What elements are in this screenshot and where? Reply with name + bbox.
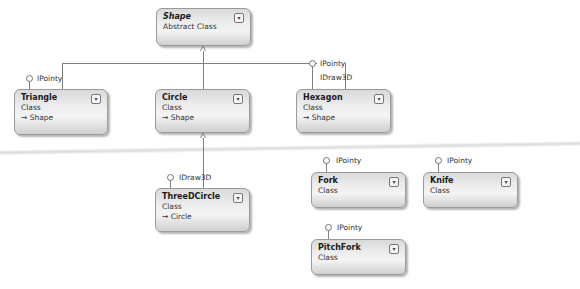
class-knife[interactable]: Knife Class ▾: [423, 172, 518, 208]
interface-label-idraw3d: IDraw3D: [320, 73, 352, 82]
class-kind: Class: [162, 103, 243, 113]
class-kind: Class: [21, 103, 101, 113]
interface-label-ipointy: IPointy: [447, 156, 472, 165]
class-base: → Shape: [21, 113, 101, 123]
interface-label-ipointy: IPointy: [37, 74, 62, 83]
class-name: Triangle: [21, 93, 101, 103]
chevron-double-down-icon[interactable]: ▾: [389, 244, 399, 254]
interface-label-ipointy: IPointy: [336, 156, 361, 165]
class-name: Fork: [318, 176, 399, 186]
class-triangle[interactable]: Triangle Class → Shape ▾: [14, 89, 108, 135]
interface-label-ipointy: IPointy: [320, 59, 345, 68]
class-kind: Class: [162, 202, 243, 212]
background-shadow-band: [0, 141, 580, 156]
class-shape[interactable]: Shape Abstract Class ▾: [156, 8, 251, 46]
circle-inheritance-line: [203, 63, 204, 89]
class-circle[interactable]: Circle Class → Shape ▾: [155, 89, 250, 133]
shape-inheritance-stem: [203, 50, 204, 64]
interface-link: [312, 66, 313, 89]
class-name: Shape: [163, 12, 244, 22]
inheritance-bar: [62, 63, 317, 64]
class-kind: Class: [303, 103, 384, 113]
interface-label-ipointy: IPointy: [337, 223, 362, 232]
class-base: → Shape: [303, 113, 384, 123]
class-base: → Circle: [162, 212, 243, 222]
chevron-double-down-icon[interactable]: ▾: [389, 177, 399, 187]
class-kind: Abstract Class: [163, 22, 244, 32]
class-kind: Class: [430, 186, 511, 196]
class-name: ThreeDCircle: [162, 192, 243, 202]
class-kind: Class: [318, 186, 399, 196]
chevron-double-down-icon[interactable]: ▾: [501, 177, 511, 187]
chevron-double-down-icon[interactable]: ▾: [233, 94, 243, 104]
interface-label-idraw3d: IDraw3D: [179, 173, 211, 182]
class-threedcircle[interactable]: ThreeDCircle Class → Circle ▾: [155, 188, 250, 232]
interface-link: [328, 230, 329, 239]
class-fork[interactable]: Fork Class ▾: [311, 172, 406, 208]
class-kind: Class: [318, 253, 399, 263]
class-hexagon[interactable]: Hexagon Class → Shape ▾: [296, 89, 391, 133]
interface-link: [29, 81, 30, 89]
chevron-double-down-icon[interactable]: ▾: [233, 193, 243, 203]
interface-link: [170, 180, 171, 188]
class-base: → Shape: [162, 113, 243, 123]
chevron-double-down-icon[interactable]: ▾: [234, 13, 244, 23]
interface-link: [438, 163, 439, 172]
chevron-double-down-icon[interactable]: ▾: [374, 94, 384, 104]
interface-link: [345, 82, 346, 89]
class-name: PitchFork: [318, 243, 399, 253]
interface-link: [326, 163, 327, 172]
class-name: Circle: [162, 93, 243, 103]
class-name: Knife: [430, 176, 511, 186]
class-pitchfork[interactable]: PitchFork Class ▾: [311, 239, 406, 275]
class-name: Hexagon: [303, 93, 384, 103]
chevron-double-down-icon[interactable]: ▾: [91, 94, 101, 104]
